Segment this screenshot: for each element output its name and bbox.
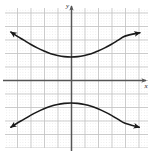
grid-layer [5, 8, 148, 148]
graph-canvas: x y [0, 0, 153, 154]
hyperbola-graph-figure: x y [0, 0, 153, 154]
major-gridlines [5, 8, 148, 148]
